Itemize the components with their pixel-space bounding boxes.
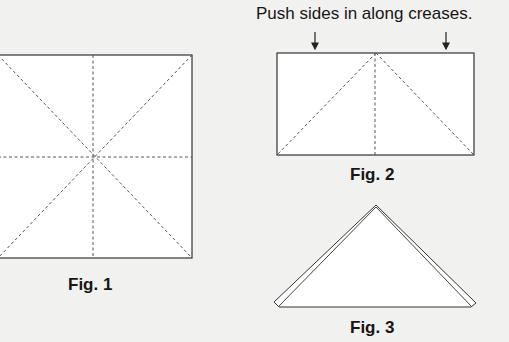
fig3-triangle [274, 205, 476, 307]
fig1-square [0, 55, 192, 258]
instruction-text: Push sides in along creases. [256, 4, 472, 24]
fig1-label: Fig. 1 [68, 275, 112, 295]
arrow-down-icon [312, 32, 449, 49]
fig2-rectangle [277, 53, 474, 155]
fig2-label: Fig. 2 [350, 165, 394, 185]
fig3-label: Fig. 3 [350, 318, 394, 338]
